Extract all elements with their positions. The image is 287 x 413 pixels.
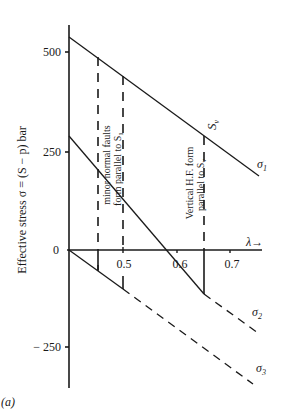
y-tick-label-0: 0 bbox=[53, 243, 59, 257]
annotation-minor-line1: minor normal faults bbox=[101, 125, 112, 205]
annotation-hf-line2: parallel to Sv bbox=[195, 159, 208, 211]
sigma3-line bbox=[69, 250, 123, 289]
sigma2-dashed-line bbox=[204, 294, 258, 333]
x-tick-label-0.5: 0.5 bbox=[117, 257, 132, 271]
y-axis-label: Effective stress σ = (S − p) bar bbox=[15, 126, 29, 273]
stress-diagram: 500 250 0 − 250 0.5 0.6 0.7 λ→ Effective… bbox=[0, 0, 287, 413]
x-tick-label-0.6: 0.6 bbox=[173, 257, 188, 271]
sigma2-label: σ2 bbox=[252, 305, 262, 321]
sv-label: Sv bbox=[204, 120, 221, 131]
sigma3-label: σ3 bbox=[256, 361, 266, 377]
y-tick-label-250: 250 bbox=[43, 145, 61, 159]
x-tick-label-0.7: 0.7 bbox=[225, 257, 240, 271]
y-tick-label-500: 500 bbox=[43, 45, 61, 59]
sigma1-label: σ1 bbox=[257, 157, 267, 173]
sigma3-dashed-line bbox=[123, 289, 253, 384]
annotation-hf-line1: Vertical H.F. form bbox=[184, 147, 195, 220]
annotation-minor-faults: minor normal faults form parallel to S1 bbox=[101, 125, 125, 206]
x-axis-label: λ→ bbox=[245, 235, 263, 249]
y-tick-label-minus-250: − 250 bbox=[33, 340, 61, 354]
panel-label: (a) bbox=[1, 395, 15, 409]
